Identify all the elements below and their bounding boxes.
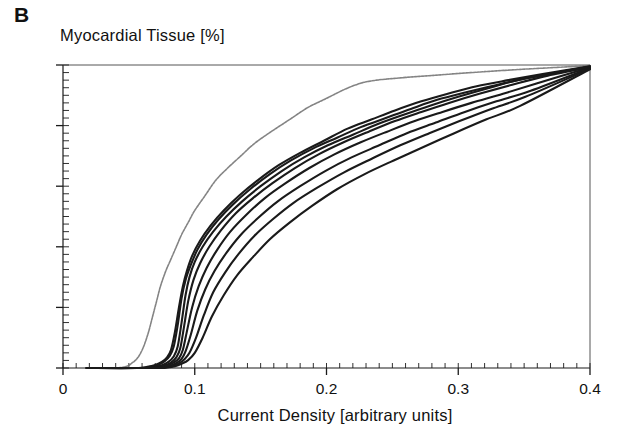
- x-tick-label: 0.2: [316, 381, 338, 397]
- x-tick-label: 0.4: [579, 381, 601, 397]
- x-tick-label: 0.1: [184, 381, 206, 397]
- x-tick-label: 0: [59, 381, 68, 397]
- figure-panel-b: B Myocardial Tissue [%] 0%20%40%60%80%10…: [0, 0, 618, 435]
- x-tick-label-group: 00.10.20.30.4: [0, 0, 618, 435]
- x-tick-label: 0.3: [447, 381, 469, 397]
- x-axis-title: Current Density [arbitrary units]: [0, 406, 618, 425]
